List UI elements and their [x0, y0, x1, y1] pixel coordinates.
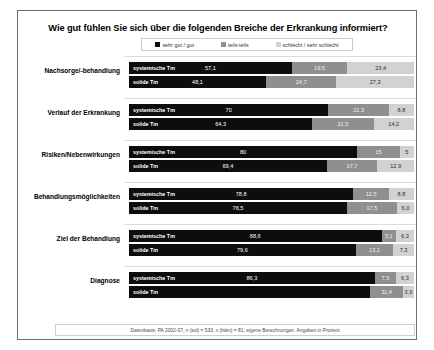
- category-label: Behandlungsmöglichkeiten: [18, 193, 120, 201]
- bar-segment: 19,5: [292, 62, 348, 74]
- bar-value-label: 7,5: [381, 275, 389, 281]
- bar-value-label: 64,3: [215, 121, 226, 127]
- bar-value-label: 69,4: [222, 163, 233, 169]
- bar-row: 80155systemische Tm: [129, 146, 414, 158]
- category-label: Verlauf der Erkrankung: [18, 109, 120, 117]
- chart-group: Risiken/Nebenwirkungen80155systemische T…: [18, 140, 418, 182]
- legend-swatch-icon: [276, 42, 281, 47]
- legend-swatch-icon: [221, 42, 226, 47]
- series-name-label: systemische Tm: [133, 104, 175, 116]
- series-name-label: solide Tm: [133, 160, 158, 172]
- bar-value-label: 6,3: [401, 233, 409, 239]
- series-name-label: systemische Tm: [133, 230, 175, 242]
- bar-value-label: 8,8: [398, 191, 406, 197]
- bar-value-label: 79,6: [237, 247, 248, 253]
- bar-segment: 17,5: [347, 202, 397, 214]
- bar-segment: 6,0: [397, 202, 414, 214]
- legend-item-teils-teils: teils-teils: [221, 42, 249, 48]
- chart-group: Nachsorge/-behandlung57,119,523,4systemi…: [18, 56, 418, 98]
- bar-segment: 6,3: [396, 272, 414, 284]
- bar-segment: 13,1: [356, 244, 393, 256]
- bar-group: 78,812,58,8systemische Tm76,517,56,0soli…: [129, 188, 414, 216]
- bar-row: 57,119,523,4systemische Tm: [129, 62, 414, 74]
- legend-item-schlecht: schlecht / sehr schlecht: [276, 42, 339, 48]
- bar-segment: 21,3: [328, 104, 389, 116]
- bar-segment: 27,3: [336, 76, 414, 88]
- group-separator: [124, 266, 416, 267]
- bar-segment: 3,9: [403, 286, 414, 298]
- bar-row: 7021,38,8systemische Tm: [129, 104, 414, 116]
- bar-value-label: 8,8: [398, 107, 406, 113]
- bar-segment: 6,3: [396, 230, 414, 242]
- legend-swatch-icon: [155, 42, 160, 47]
- page-title: Wie gut fühlen Sie sich über die folgend…: [18, 23, 418, 33]
- bar-value-label: 23,4: [375, 65, 386, 71]
- category-label: Diagnose: [18, 277, 120, 285]
- bar-group: 57,119,523,4systemische Tm48,124,727,3so…: [129, 62, 414, 90]
- bar-segment: 76,5: [129, 202, 347, 214]
- bar-value-label: 86,3: [246, 275, 257, 281]
- bar-row: 78,812,58,8systemische Tm: [129, 188, 414, 200]
- chart-footnote: Datenbasis: PA 2002-07, n (sol) = 533, n…: [131, 328, 340, 333]
- bar-segment: 15: [357, 146, 400, 158]
- bar-segment: 12,5: [353, 188, 389, 200]
- bar-segment: 24,7: [266, 76, 336, 88]
- bar-segment: 7,5: [375, 272, 396, 284]
- series-name-label: solide Tm: [133, 202, 158, 214]
- legend-label: sehr gut / gut: [162, 42, 193, 48]
- bar-row: 86,37,56,3systemische Tm: [129, 272, 414, 284]
- bar-value-label: 17,7: [347, 163, 358, 169]
- bar-group: 86,37,56,3systemische Tm11,43,9solide Tm: [129, 272, 414, 300]
- series-name-label: solide Tm: [133, 76, 158, 88]
- chart-group: Ziel der Behandlung88,65,16,3systemische…: [18, 224, 418, 266]
- group-separator: [124, 98, 416, 99]
- chart-frame: Wie gut fühlen Sie sich über die folgend…: [17, 10, 417, 340]
- bar-value-label: 14,2: [388, 121, 399, 127]
- bar-value-label: 12,9: [390, 163, 401, 169]
- bar-value-label: 5,1: [385, 233, 393, 239]
- bar-row: 88,65,16,3systemische Tm: [129, 230, 414, 242]
- bar-value-label: 19,5: [314, 65, 325, 71]
- bar-segment: 8,8: [389, 188, 414, 200]
- bar-segment: 21,5: [312, 118, 373, 130]
- chart-legend: sehr gut / gut teils-teils schlecht / se…: [141, 38, 353, 51]
- category-label: Risiken/Nebenwirkungen: [18, 151, 120, 159]
- bar-value-label: 13,1: [369, 247, 380, 253]
- bar-row: 11,43,9solide Tm: [129, 286, 414, 298]
- bar-segment: 8,8: [389, 104, 414, 116]
- group-separator: [124, 224, 416, 225]
- series-name-label: systemische Tm: [133, 272, 175, 284]
- series-name-label: systemische Tm: [133, 146, 175, 158]
- bar-segment: 14,2: [374, 118, 414, 130]
- bar-segment: 79,6: [129, 244, 356, 256]
- bar-segment: 69,4: [129, 160, 327, 172]
- bar-group: 80155systemische Tm69,417,712,9solide Tm: [129, 146, 414, 174]
- bar-value-label: 6,3: [401, 275, 409, 281]
- bar-value-label: 80: [240, 149, 246, 155]
- bar-value-label: 5: [405, 149, 408, 155]
- bar-value-label: 15: [375, 149, 381, 155]
- bar-row: 79,613,17,3solide Tm: [129, 244, 414, 256]
- bar-value-label: 24,7: [296, 79, 307, 85]
- bar-value-label: 27,3: [370, 79, 381, 85]
- bar-segment: 17,7: [327, 160, 377, 172]
- series-name-label: systemische Tm: [133, 188, 175, 200]
- series-name-label: systemische Tm: [133, 62, 175, 74]
- bar-value-label: 6,0: [402, 205, 410, 211]
- bar-value-label: 17,5: [367, 205, 378, 211]
- bar-value-label: 88,6: [250, 233, 261, 239]
- group-separator: [124, 56, 416, 57]
- bar-value-label: 7,3: [400, 247, 408, 253]
- bar-value-label: 11,4: [381, 289, 391, 295]
- bar-row: 48,124,727,3solide Tm: [129, 76, 414, 88]
- bar-segment: 11,4: [370, 286, 402, 298]
- chart-group: Verlauf der Erkrankung7021,38,8systemisc…: [18, 98, 418, 140]
- bar-value-label: 76,5: [233, 205, 244, 211]
- group-separator: [124, 182, 416, 183]
- bar-row: 69,417,712,9solide Tm: [129, 160, 414, 172]
- chart-group: Behandlungsmöglichkeiten78,812,58,8syste…: [18, 182, 418, 224]
- series-name-label: solide Tm: [133, 118, 158, 130]
- bar-value-label: 21,3: [353, 107, 364, 113]
- bar-value-label: 12,5: [366, 191, 377, 197]
- series-name-label: solide Tm: [133, 286, 158, 298]
